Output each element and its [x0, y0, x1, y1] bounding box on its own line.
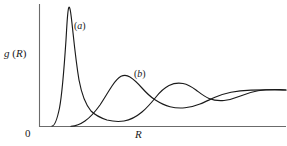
- x-axis-label: R: [135, 129, 142, 140]
- curve-b-label: (b): [134, 69, 146, 79]
- curve-b-paren-close: ): [142, 68, 145, 79]
- curve-a-paren-close: ): [82, 20, 85, 31]
- radial-distribution-function-figure: g (R) R 0 (a) (b): [0, 0, 287, 146]
- origin-label: 0: [25, 128, 31, 139]
- y-axis-label-variable: R: [16, 47, 23, 59]
- curve-a-label: (a): [74, 21, 86, 31]
- y-axis-label: g (R): [4, 48, 26, 59]
- curve-a-path: [52, 7, 286, 126]
- y-axis-label-paren-close: ): [23, 47, 27, 59]
